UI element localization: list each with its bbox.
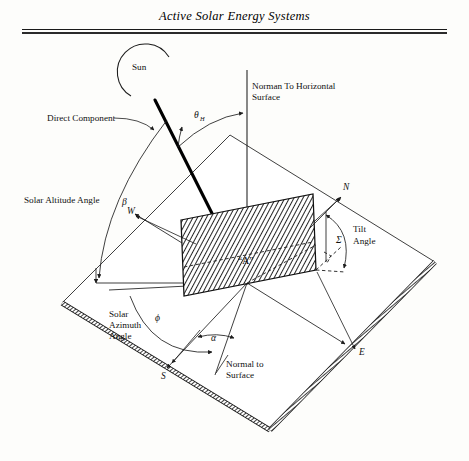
tilt-angle-label-line2: Angle xyxy=(353,236,375,246)
solar-altitude-angle-label: Solar Altitude Angle xyxy=(24,195,100,205)
compass-east-label: E xyxy=(358,347,365,357)
tilt-angle-symbol: Σ xyxy=(335,234,342,245)
figure-page: Active Solar Energy Systems xyxy=(0,0,469,461)
incidence-angle-symbol: θ xyxy=(194,109,199,120)
compass-north-label: N xyxy=(342,182,350,192)
compass-west-label: W xyxy=(127,206,136,216)
tilt-angle-label-line1: Tilt xyxy=(353,224,366,234)
direct-component-leader xyxy=(114,118,154,130)
collector-area-label: “A” xyxy=(238,256,253,266)
solar-azimuth-label-line1: Solar xyxy=(109,309,128,319)
normal-to-surface-label-line1: Normal to xyxy=(226,359,264,369)
solar-azimuth-label-line3: Angle xyxy=(109,331,131,341)
solar-azimuth-label-line2: Azimuth xyxy=(109,320,142,330)
solar-geometry-diagram: Sun Direct Component Norman To Horizonta… xyxy=(0,0,469,461)
normal-to-surface-label-line2: Surface xyxy=(226,370,254,380)
normal-to-horizontal-label-line2: Surface xyxy=(252,92,280,102)
azimuth-angle-symbol: ϕ xyxy=(155,312,160,323)
sun-label: Sun xyxy=(132,62,147,72)
compass-south-label: S xyxy=(161,371,166,381)
normal-to-horizontal-label-line1: Norman To Horizontal xyxy=(252,81,336,91)
incidence-angle-subscript: H xyxy=(199,115,205,122)
direct-component-label: Direct Component xyxy=(47,113,116,123)
